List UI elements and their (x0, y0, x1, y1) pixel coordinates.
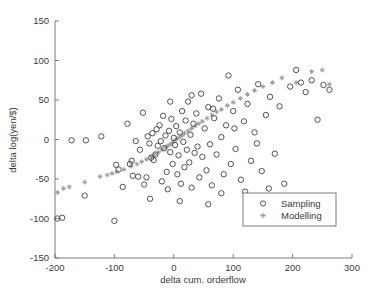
data-point-sampling (198, 91, 203, 96)
data-point-sampling (200, 154, 205, 159)
data-point-modelling (196, 121, 201, 126)
data-point-modelling (205, 116, 210, 121)
data-point-sampling (221, 172, 226, 177)
data-point-modelling (105, 173, 110, 178)
data-point-sampling (226, 73, 231, 78)
scatter-plot-figure: -200-1000100200300 -150-100-50050100150 … (0, 0, 372, 293)
data-point-sampling (207, 142, 212, 147)
data-point-sampling (168, 149, 173, 154)
data-point-sampling (176, 153, 181, 158)
data-point-modelling (200, 119, 205, 124)
legend-label-sampling: Sampling (281, 198, 321, 209)
data-point-sampling (177, 130, 182, 135)
data-point-sampling (112, 218, 117, 223)
data-point-sampling (188, 132, 193, 137)
data-point-modelling (61, 186, 66, 191)
data-point-modelling (110, 171, 115, 176)
data-point-sampling (211, 115, 216, 120)
x-tick-label: -200 (45, 262, 64, 273)
data-point-sampling (171, 135, 176, 140)
data-point-modelling (98, 174, 103, 179)
x-axis-title: delta cum. orderflow (160, 274, 246, 285)
data-point-sampling (202, 126, 207, 131)
data-point-sampling (309, 78, 314, 83)
chart-legend[interactable]: Sampling Modelling (243, 193, 336, 226)
data-point-sampling (214, 152, 219, 157)
data-point-modelling (280, 75, 285, 80)
data-point-sampling (235, 87, 240, 92)
data-point-sampling (219, 191, 224, 196)
data-point-sampling (170, 161, 175, 166)
data-point-sampling (141, 182, 146, 187)
data-point-sampling (232, 126, 237, 131)
data-point-sampling (192, 150, 197, 155)
data-point-sampling (120, 184, 125, 189)
legend-marker-modelling (260, 213, 265, 218)
data-point-sampling (254, 141, 259, 146)
data-point-sampling (248, 158, 253, 163)
data-point-sampling (166, 128, 171, 133)
data-point-sampling (293, 67, 298, 72)
data-point-modelling (82, 180, 87, 185)
data-point-sampling (163, 133, 168, 138)
data-point-sampling (158, 138, 163, 143)
y-tick-label: -100 (30, 213, 49, 224)
data-point-sampling (223, 123, 228, 128)
data-point-sampling (277, 104, 282, 109)
data-point-modelling (238, 96, 243, 101)
data-point-sampling (195, 144, 200, 149)
legend-label-modelling: Modelling (281, 210, 322, 221)
x-tick-label: 0 (171, 262, 176, 273)
data-point-sampling (298, 80, 303, 85)
y-tick-label: 100 (33, 55, 49, 66)
data-point-sampling (321, 82, 326, 87)
data-point-sampling (160, 113, 165, 118)
data-point-sampling (177, 198, 182, 203)
data-point-sampling (197, 175, 202, 180)
data-point-sampling (99, 134, 104, 139)
data-point-sampling (210, 106, 215, 111)
data-point-sampling (130, 173, 135, 178)
data-point-sampling (263, 112, 268, 117)
data-point-modelling (225, 103, 230, 108)
data-point-modelling (327, 82, 332, 87)
data-point-sampling (327, 87, 332, 92)
data-point-sampling (135, 174, 140, 179)
data-point-sampling (133, 138, 138, 143)
data-point-sampling (266, 186, 271, 191)
data-point-modelling (122, 167, 127, 172)
data-point-sampling (288, 84, 293, 89)
data-point-sampling (189, 185, 194, 190)
data-point-sampling (219, 134, 224, 139)
x-tick-label: 200 (285, 262, 301, 273)
data-point-modelling (252, 88, 257, 93)
y-tick-label: -50 (35, 173, 49, 184)
data-point-sampling (187, 160, 192, 165)
data-point-sampling (179, 108, 184, 113)
data-point-sampling (125, 121, 130, 126)
data-point-sampling (272, 151, 277, 156)
data-point-sampling (267, 94, 272, 99)
data-point-sampling (206, 202, 211, 207)
data-point-sampling (204, 168, 209, 173)
data-point-sampling (147, 141, 152, 146)
chart-canvas: -200-1000100200300 -150-100-50050100150 … (0, 0, 372, 293)
series-modelling-markers (55, 68, 332, 195)
data-point-sampling (189, 93, 194, 98)
data-point-sampling (194, 111, 199, 116)
data-point-sampling (241, 119, 246, 124)
x-tick-label: 300 (344, 262, 360, 273)
data-point-sampling (175, 172, 180, 177)
data-point-sampling (159, 179, 164, 184)
data-point-sampling (315, 117, 320, 122)
data-point-sampling (165, 187, 170, 192)
data-point-sampling (168, 99, 173, 104)
data-point-sampling (216, 96, 221, 101)
data-point-sampling (144, 175, 149, 180)
data-point-sampling (140, 110, 145, 115)
data-point-sampling (147, 196, 152, 201)
data-point-modelling (67, 185, 72, 190)
data-point-sampling (137, 147, 142, 152)
data-point-sampling (252, 130, 257, 135)
data-point-sampling (169, 116, 174, 121)
